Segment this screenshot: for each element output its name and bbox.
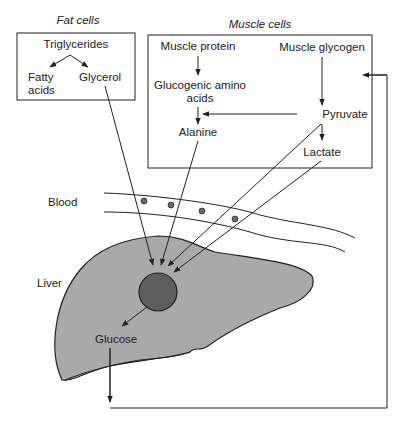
lactate-label: Lactate <box>303 146 341 158</box>
glycerol-label: Glycerol <box>79 71 121 83</box>
blood-dot-glycerol <box>141 198 147 204</box>
fatty-acids-label-2: acids <box>28 84 55 96</box>
alanine-label: Alanine <box>179 126 217 138</box>
blood-label: Blood <box>48 196 77 208</box>
glucose-label: Glucose <box>95 333 137 345</box>
lactate-to-liver-arrow <box>174 161 321 272</box>
gluconeogenesis-diagram: Fat cells Triglycerides Fatty acids Glyc… <box>0 0 406 426</box>
fatty-acids-label-1: Fatty <box>28 71 54 83</box>
muscle-cells-title: Muscle cells <box>229 18 292 30</box>
pyruvate-label: Pyruvate <box>322 108 367 120</box>
hepatocyte-circle <box>139 273 177 311</box>
blood-dot-pyruvate <box>199 208 205 214</box>
glucogenic-amino-acids-label-1: Glucogenic amino <box>154 79 246 91</box>
fat-cells-title: Fat cells <box>57 14 100 26</box>
liver-shape <box>55 236 313 380</box>
liver-label: Liver <box>37 277 62 289</box>
glycerol-to-liver-arrow <box>105 86 153 265</box>
glucogenic-amino-acids-label-2: acids <box>187 92 214 104</box>
muscle-protein-label: Muscle protein <box>161 40 236 52</box>
muscle-glycogen-label: Muscle glycogen <box>279 41 365 53</box>
triglycerides-label: Triglycerides <box>44 38 109 50</box>
blood-dot-lactate <box>232 216 238 222</box>
blood-dot-alanine <box>168 202 174 208</box>
pyruvate-to-liver-arrow <box>168 124 321 266</box>
